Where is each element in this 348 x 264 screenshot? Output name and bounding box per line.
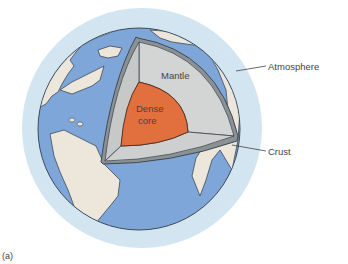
core-label-line2: core xyxy=(138,115,156,126)
earth-structure-diagram: Atmosphere Crust Mantle Dense core (a) xyxy=(0,0,348,264)
mantle-label: Mantle xyxy=(161,70,190,81)
panel-label: (a) xyxy=(2,251,13,261)
crust-label: Crust xyxy=(268,146,291,157)
atmosphere-label: Atmosphere xyxy=(268,61,319,72)
core-label-line1: Dense xyxy=(136,103,163,114)
